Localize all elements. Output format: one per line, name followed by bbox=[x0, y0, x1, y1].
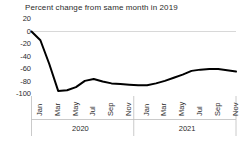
x-axis-tick-label: Sep bbox=[106, 102, 115, 116]
x-axis-tick-label: Mar bbox=[53, 103, 62, 116]
x-axis-tick-label: Jan bbox=[35, 104, 44, 116]
x-axis-tick-label: May bbox=[71, 102, 80, 116]
x-axis-tick-label: Jul bbox=[88, 106, 97, 116]
x-axis-tick-label: Mar bbox=[159, 103, 168, 116]
x-axis-tick-labels: JanMarMayJulSepNovJanMarMayJulSepNov2020… bbox=[0, 0, 240, 143]
x-axis-tick-label: Nov bbox=[231, 102, 240, 116]
x-axis-tick-label: Nov bbox=[124, 102, 133, 116]
x-axis-tick-label: Jan bbox=[142, 104, 151, 116]
x-axis-tick-label: May bbox=[177, 102, 186, 116]
chart-container: Percent change from same month in 2019 2… bbox=[0, 0, 240, 143]
x-axis-tick-label: Sep bbox=[213, 102, 222, 116]
x-axis-group-label: 2021 bbox=[167, 124, 207, 133]
x-axis-tick-label: Jul bbox=[195, 106, 204, 116]
x-axis-group-label: 2020 bbox=[60, 124, 100, 133]
